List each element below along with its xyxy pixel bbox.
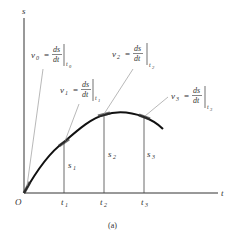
s-t-diagram: s t O t 1 t 2 t 3 s 1 s 2 s 3 v 0 = ds d… (0, 0, 232, 249)
velocity-v0-annotation: v 0 = ds dt t 0 (31, 44, 72, 69)
svg-text:t: t (95, 95, 97, 101)
marker-s2: s 2 (108, 149, 116, 160)
svg-text:0: 0 (69, 64, 72, 69)
svg-text:3: 3 (210, 107, 213, 112)
velocity-v3-annotation: v 3 = ds dt t 3 (171, 86, 213, 112)
tangent-marker-t3 (139, 115, 150, 119)
svg-text:2: 2 (152, 65, 155, 70)
svg-text:ds: ds (193, 86, 200, 95)
position-curve (24, 112, 163, 193)
origin-label: O (15, 197, 22, 207)
t-axis-label: t (221, 188, 224, 198)
svg-text:t: t (66, 61, 68, 67)
svg-text:t: t (100, 197, 103, 207)
svg-text:v: v (112, 49, 116, 59)
svg-text:t: t (207, 104, 209, 110)
svg-text:1: 1 (73, 165, 76, 171)
tick-t1: t 1 (61, 197, 68, 208)
velocity-v1-annotation: v 1 = ds dt t 1 (60, 79, 100, 103)
svg-text:s: s (68, 160, 72, 170)
svg-text:dt: dt (82, 90, 89, 99)
svg-text:s: s (108, 149, 112, 159)
svg-text:=: = (125, 49, 130, 59)
velocity-v2-annotation: v 2 = ds dt t 2 (112, 43, 155, 70)
svg-text:ds: ds (53, 45, 60, 54)
leader-v3 (145, 97, 168, 116)
svg-text:t: t (141, 197, 144, 207)
marker-s1: s 1 (68, 160, 76, 171)
svg-text:0: 0 (36, 55, 39, 61)
svg-text:dt: dt (134, 54, 141, 63)
svg-text:=: = (184, 91, 189, 101)
tick-t3: t 3 (141, 197, 148, 208)
svg-text:t: t (149, 62, 151, 68)
svg-text:t: t (61, 197, 64, 207)
svg-text:v: v (31, 50, 35, 60)
s-axis-label: s (22, 6, 26, 16)
svg-text:2: 2 (117, 54, 120, 60)
svg-text:v: v (171, 91, 175, 101)
leader-v0 (27, 69, 43, 186)
leader-v2 (104, 69, 133, 114)
svg-text:1: 1 (65, 202, 68, 208)
svg-text:=: = (73, 85, 78, 95)
svg-text:3: 3 (175, 96, 179, 102)
svg-text:2: 2 (104, 202, 107, 208)
svg-text:3: 3 (151, 154, 155, 160)
svg-text:v: v (60, 85, 64, 95)
svg-text:=: = (44, 50, 49, 60)
svg-text:dt: dt (193, 96, 200, 105)
svg-text:2: 2 (113, 154, 116, 160)
tick-t2: t 2 (100, 197, 107, 208)
svg-text:s: s (147, 149, 151, 159)
marker-s3: s 3 (147, 149, 155, 160)
svg-text:ds: ds (82, 80, 89, 89)
svg-text:3: 3 (144, 202, 148, 208)
svg-text:1: 1 (65, 90, 68, 96)
figure-caption: (a) (108, 221, 117, 230)
svg-text:1: 1 (98, 98, 100, 103)
svg-text:ds: ds (134, 44, 141, 53)
svg-text:dt: dt (53, 55, 60, 64)
